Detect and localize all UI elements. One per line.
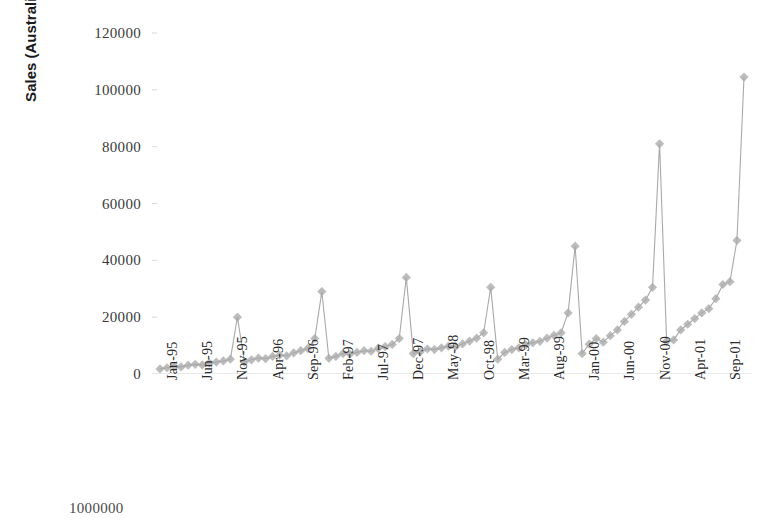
x-axis-tick-label: Feb-97 (341, 339, 357, 380)
data-point-marker (296, 346, 305, 355)
x-axis-tick-label: Sep-96 (306, 339, 322, 380)
data-point-marker (563, 308, 572, 317)
x-axis-tick-label: Jun-00 (622, 341, 638, 380)
data-point-marker (704, 304, 713, 313)
plot-area (152, 26, 752, 374)
x-axis-tick-label: Jan-95 (165, 341, 181, 380)
x-axis-tick-label: Apr-01 (693, 339, 709, 380)
data-point-marker (155, 364, 164, 373)
y-axis-tick-label: 60000 (55, 197, 141, 211)
data-point-marker (233, 313, 242, 322)
data-point-marker (226, 355, 235, 364)
y-axis-tick-label: 40000 (55, 253, 141, 267)
data-point-marker (486, 283, 495, 292)
y-axis-tick-labels: 020000400006000080000100000120000 (55, 0, 141, 480)
x-axis-tick-label: Jan-00 (587, 341, 603, 380)
x-axis-tick-label: Dec-97 (411, 338, 427, 380)
x-axis-tick-label: Nov-00 (658, 336, 674, 380)
data-point-marker (261, 354, 270, 363)
sales-line-chart: Sales (Australian Dollars) 0200004000060… (0, 0, 777, 480)
next-chart-top-axis-label: 1000000 (69, 500, 124, 517)
x-axis-tick-label: Oct-98 (482, 340, 498, 380)
x-axis-tick-label: Aug-99 (552, 336, 568, 380)
x-axis-tick-label: Mar-99 (517, 337, 533, 380)
data-point-marker (711, 294, 720, 303)
data-point-marker (324, 354, 333, 363)
data-point-marker (219, 356, 228, 365)
data-point-marker (578, 349, 587, 358)
x-axis-tick-label: Nov-95 (235, 336, 251, 380)
series-line (160, 77, 744, 369)
data-point-marker (571, 242, 580, 251)
data-point-marker (184, 361, 193, 370)
x-axis-tick-label: Sep-01 (728, 339, 744, 380)
x-axis-tick-label: Apr-96 (271, 339, 287, 380)
y-axis-tick-label: 100000 (55, 83, 141, 97)
y-axis-tick-label: 120000 (55, 26, 141, 40)
y-axis-title: Sales (Australian Dollars) (18, 0, 44, 136)
series-markers (155, 72, 748, 373)
x-axis-tick-label: Jul-97 (376, 344, 392, 380)
data-point-marker (739, 72, 748, 81)
data-point-marker (479, 328, 488, 337)
data-point-marker (655, 139, 664, 148)
y-axis-tick-marks (152, 33, 157, 374)
data-point-marker (402, 273, 411, 282)
x-axis-tick-label: May-98 (446, 334, 462, 380)
series-plot (152, 26, 752, 374)
y-axis-tick-label: 80000 (55, 140, 141, 154)
data-point-marker (430, 345, 439, 354)
data-point-marker (437, 343, 446, 352)
x-axis-tick-labels: Jan-95Jun-95Nov-95Apr-96Sep-96Feb-97Jul-… (152, 378, 752, 478)
data-point-marker (732, 236, 741, 245)
y-axis-tick-label: 0 (55, 367, 141, 381)
y-axis-tick-label: 20000 (55, 310, 141, 324)
data-point-marker (648, 283, 657, 292)
x-axis-tick-label: Jun-95 (200, 341, 216, 380)
data-point-marker (317, 287, 326, 296)
